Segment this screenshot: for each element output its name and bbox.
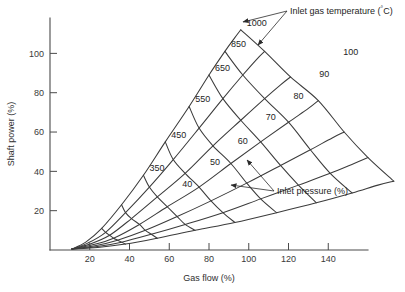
inlet-pressure-label-70: 70	[266, 112, 276, 122]
x-axis-ticks: 20406080100120140	[85, 243, 336, 264]
y-axis-title: Shaft power (%)	[6, 102, 16, 167]
x-tick-label: 100	[241, 254, 256, 264]
x-tick-label: 80	[204, 254, 214, 264]
inlet-gas-temperature-label-450: 450	[171, 130, 186, 140]
inlet-gas-temperature-label-850: 850	[231, 39, 246, 49]
y-axis-ticks: 20406080100	[29, 49, 57, 216]
x-tick-label: 140	[321, 254, 336, 264]
x-tick-label: 120	[281, 254, 296, 264]
chart-figure: 20406080100 20406080100120140 1009080706…	[0, 0, 405, 292]
inlet-gas-temperature-annotation-arrow-2	[258, 11, 287, 45]
x-tick-label: 60	[164, 254, 174, 264]
inlet-pressure-label-60: 60	[238, 136, 248, 146]
inlet-gas-temperature-label-350: 350	[149, 163, 164, 173]
inlet-gas-temperature-label-550: 550	[195, 94, 210, 104]
x-axis-title: Gas flow (%)	[183, 273, 235, 283]
inlet-pressure-label-40: 40	[182, 179, 192, 189]
inlet-gas-temperature-label-1000: 1000	[247, 18, 267, 28]
y-tick-label: 100	[29, 49, 44, 59]
y-tick-label: 20	[34, 206, 44, 216]
inlet-gas-temperature-curve-550	[189, 106, 276, 212]
inlet-gas-temperature-annotation-text: Inlet gas temperature (°C)	[290, 5, 393, 17]
axes-group	[50, 18, 368, 250]
annotations-group: Inlet gas temperature (°C)Inlet pressure…	[231, 5, 393, 197]
curve-labels-group: 1009080706050401000850650550450350	[149, 18, 358, 189]
inlet-pressure-label-80: 80	[294, 91, 304, 101]
inlet-pressure-label-90: 90	[319, 69, 329, 79]
x-tick-label: 20	[85, 254, 95, 264]
inlet-pressure-label-100: 100	[343, 47, 358, 57]
performance-map-chart: 20406080100 20406080100120140 1009080706…	[0, 0, 405, 292]
inlet-pressure-curve-70	[72, 101, 318, 249]
inlet-pressure-curve-80	[72, 77, 291, 249]
inlet-pressure-annotation-arrow-1	[247, 160, 274, 191]
y-tick-label: 80	[34, 88, 44, 98]
inlet-gas-temperature-label-650: 650	[215, 63, 230, 73]
inlet-pressure-annotation-text: Inlet pressure (%)	[277, 186, 348, 196]
y-tick-label: 40	[34, 167, 44, 177]
x-tick-label: 40	[124, 254, 134, 264]
y-tick-label: 60	[34, 127, 44, 137]
inlet-pressure-label-50: 50	[210, 157, 220, 167]
